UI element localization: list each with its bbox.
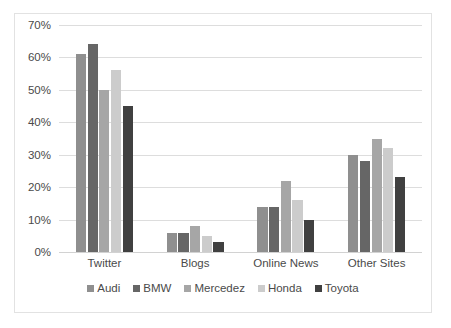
bar[interactable] [269, 207, 279, 252]
legend-item[interactable]: BMW [133, 282, 171, 294]
y-axis-tick-label: 0% [34, 246, 51, 258]
bar-group-bars [348, 25, 405, 252]
legend-swatch-icon [87, 285, 94, 292]
bar-group-bars [257, 25, 314, 252]
bar[interactable] [257, 207, 267, 252]
chart-legend: AudiBMWMercedezHondaToyota [15, 282, 431, 294]
bar-group [150, 25, 241, 252]
y-axis: 70%60%50%40%30%20%10%0% [15, 25, 55, 252]
x-axis-tick-label: Online News [241, 257, 332, 277]
x-axis-tick-label: Other Sites [331, 257, 422, 277]
bar[interactable] [190, 226, 200, 252]
bar[interactable] [348, 155, 358, 252]
y-axis-tick-label: 10% [28, 214, 51, 226]
bar-group [241, 25, 332, 252]
legend-item[interactable]: Mercedez [184, 282, 245, 294]
chart-container: 70%60%50%40%30%20%10%0% TwitterBlogsOnli… [14, 13, 432, 313]
bar-group-bars [76, 25, 133, 252]
x-axis: TwitterBlogsOnline NewsOther Sites [59, 257, 422, 277]
bar[interactable] [202, 236, 212, 252]
legend-swatch-icon [315, 285, 322, 292]
bar[interactable] [111, 70, 121, 252]
bar-group [331, 25, 422, 252]
y-axis-tick-label: 40% [28, 116, 51, 128]
legend-label: Audi [97, 282, 120, 294]
bar[interactable] [167, 233, 177, 252]
legend-label: Mercedez [194, 282, 245, 294]
legend-swatch-icon [133, 285, 140, 292]
bar-groups [59, 25, 422, 252]
bar-group-bars [167, 25, 224, 252]
legend-label: Honda [268, 282, 302, 294]
bar[interactable] [178, 233, 188, 252]
legend-label: BMW [143, 282, 171, 294]
bar[interactable] [292, 200, 302, 252]
axis-baseline [59, 252, 422, 253]
legend-item[interactable]: Audi [87, 282, 120, 294]
y-axis-tick-label: 30% [28, 149, 51, 161]
bar[interactable] [123, 106, 133, 252]
chart-plot-wrapper: 70%60%50%40%30%20%10%0% TwitterBlogsOnli… [15, 14, 431, 312]
legend-item[interactable]: Toyota [315, 282, 359, 294]
y-axis-tick-label: 20% [28, 181, 51, 193]
x-axis-tick-label: Twitter [59, 257, 150, 277]
bar[interactable] [281, 181, 291, 252]
bar[interactable] [372, 139, 382, 253]
x-axis-tick-label: Blogs [150, 257, 241, 277]
plot-area [59, 25, 422, 252]
bar[interactable] [360, 161, 370, 252]
y-axis-tick-label: 60% [28, 51, 51, 63]
legend-item[interactable]: Honda [258, 282, 302, 294]
bar[interactable] [395, 177, 405, 252]
legend-label: Toyota [325, 282, 359, 294]
legend-swatch-icon [258, 285, 265, 292]
bar[interactable] [76, 54, 86, 252]
bar[interactable] [383, 148, 393, 252]
bar-group [59, 25, 150, 252]
y-axis-tick-label: 70% [28, 19, 51, 31]
legend-swatch-icon [184, 285, 191, 292]
y-axis-tick-label: 50% [28, 84, 51, 96]
bar[interactable] [213, 242, 223, 252]
bar[interactable] [304, 220, 314, 252]
bar[interactable] [99, 90, 109, 252]
bar[interactable] [88, 44, 98, 252]
